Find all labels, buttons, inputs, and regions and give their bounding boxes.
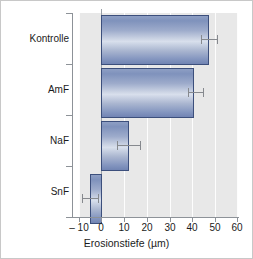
y-tick-0 (66, 13, 73, 14)
gridline-50 (215, 13, 216, 217)
category-label-snf: SnF (51, 186, 69, 197)
category-label-kontrolle: Kontrolle (30, 33, 69, 44)
x-axis-line (72, 217, 239, 218)
y-tick-3 (66, 166, 73, 167)
x-tick-label-60: 60 (217, 222, 253, 234)
gridline-60 (237, 13, 238, 217)
y-tick-2 (66, 115, 73, 116)
errorbar-line-kontrolle (201, 39, 217, 40)
errorbar-line-amf (188, 92, 203, 93)
bar-kontrolle (101, 15, 209, 65)
errorbar-line-naf (117, 145, 140, 146)
bar-naf (101, 121, 129, 171)
category-label-amf: AmF (48, 84, 69, 95)
gridline-minus10 (79, 13, 80, 217)
category-label-naf: NaF (50, 135, 69, 146)
x-axis-title: Erosionstiefe (µm) (1, 237, 252, 249)
errorbar-cap-high-naf (140, 141, 141, 150)
errorbar-cap-high-amf (203, 88, 204, 97)
errorbar-cap-low-amf (188, 88, 189, 97)
errorbar-cap-high-kontrolle (217, 35, 218, 44)
chart-figure: Kontrolle AmF NaF SnF – 10 0 10 20 30 40… (0, 0, 253, 259)
errorbar-cap-high-snf (98, 194, 99, 203)
plot-area (79, 13, 238, 217)
errorbar-cap-low-naf (117, 141, 118, 150)
errorbar-cap-low-snf (82, 194, 83, 203)
bar-amf (101, 68, 194, 118)
errorbar-line-snf (82, 198, 98, 199)
y-tick-4 (66, 217, 73, 218)
errorbar-cap-low-kontrolle (201, 35, 202, 44)
y-tick-1 (66, 64, 73, 65)
